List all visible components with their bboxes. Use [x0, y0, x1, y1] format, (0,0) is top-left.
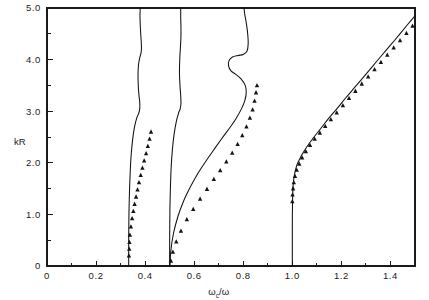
dispersion-curve	[170, 8, 248, 266]
data-point-triangle	[144, 151, 148, 155]
figure-container: 1.02.03.04.05.0000.20.40.60.81.01.21.4 k…	[0, 0, 429, 300]
data-point-triangle	[131, 209, 135, 213]
y-origin-label: 0	[35, 260, 41, 271]
data-point-triangle	[127, 240, 131, 244]
y-tick-label: 4.0	[26, 54, 41, 65]
axes-group	[47, 8, 415, 266]
data-point-triangle	[212, 177, 216, 181]
data-point-triangle	[142, 158, 146, 162]
plot-frame	[47, 8, 415, 266]
x-tick-label: 0	[44, 270, 50, 281]
data-point-triangle	[191, 207, 195, 211]
x-tick-label: 0.6	[187, 270, 202, 281]
data-point-triangle	[398, 38, 402, 42]
data-point-triangle	[290, 199, 294, 203]
data-point-triangle	[140, 165, 144, 169]
data-point-triangle	[252, 98, 256, 102]
data-point-triangle	[372, 67, 376, 71]
data-point-triangle	[224, 159, 228, 163]
data-point-triangle	[149, 129, 153, 133]
data-point-triangle	[248, 115, 252, 119]
x-tick-label: 1.0	[285, 270, 300, 281]
x-tick-label: 1.2	[334, 270, 349, 281]
data-point-triangle	[353, 89, 357, 93]
data-point-triangle	[379, 60, 383, 64]
data-point-triangle	[185, 217, 189, 221]
data-point-triangle	[255, 83, 259, 87]
data-point-triangle	[290, 192, 294, 196]
chart-canvas: 1.02.03.04.05.0000.20.40.60.81.01.21.4 k…	[0, 0, 429, 300]
data-point-triangle	[218, 168, 222, 172]
data-point-triangle	[391, 45, 395, 49]
y-tick-label: 1.0	[26, 209, 41, 220]
data-point-triangle	[254, 90, 258, 94]
data-point-triangle	[410, 24, 414, 28]
data-point-triangle	[198, 196, 202, 200]
x-tick-label: 0.4	[138, 270, 153, 281]
data-point-triangle	[147, 137, 151, 141]
data-point-triangle	[250, 107, 254, 111]
data-point-triangle	[385, 52, 389, 56]
x-tick-label: 0.2	[89, 270, 104, 281]
y-axis-label: kR	[14, 136, 26, 147]
ticks-group	[47, 8, 415, 266]
data-point-triangle	[179, 228, 183, 232]
data-point-triangle	[135, 187, 139, 191]
data-point-triangle	[127, 253, 131, 257]
data-point-triangle	[127, 246, 131, 250]
y-tick-label: 2.0	[26, 157, 41, 168]
tick-labels-group: 1.02.03.04.05.0000.20.40.60.81.01.21.4	[26, 2, 398, 281]
data-point-triangle	[205, 187, 209, 191]
data-point-triangle	[174, 239, 178, 243]
data-point-triangle	[360, 81, 364, 85]
x-tick-label: 0.8	[236, 270, 251, 281]
data-point-triangle	[137, 180, 141, 184]
data-point-triangle	[404, 31, 408, 35]
y-tick-label: 5.0	[26, 2, 41, 13]
data-point-triangle	[235, 142, 239, 146]
data-point-triangle	[292, 180, 296, 184]
data-point-triangle	[146, 144, 150, 148]
data-point-triangle	[240, 133, 244, 137]
dispersion-curve	[292, 16, 415, 266]
data-point-triangle	[134, 194, 138, 198]
data-curves-group	[129, 8, 415, 266]
x-axis-label: ωc/ω	[208, 286, 229, 299]
data-point-triangle	[129, 224, 133, 228]
data-point-triangle	[230, 151, 234, 155]
x-tick-label: 1.4	[383, 270, 398, 281]
y-tick-label: 3.0	[26, 106, 41, 117]
data-point-triangle	[293, 174, 297, 178]
data-point-triangle	[291, 186, 295, 190]
data-point-triangle	[130, 216, 134, 220]
data-point-triangle	[366, 74, 370, 78]
data-point-triangle	[244, 124, 248, 128]
data-point-triangle	[132, 202, 136, 206]
data-point-triangle	[139, 173, 143, 177]
